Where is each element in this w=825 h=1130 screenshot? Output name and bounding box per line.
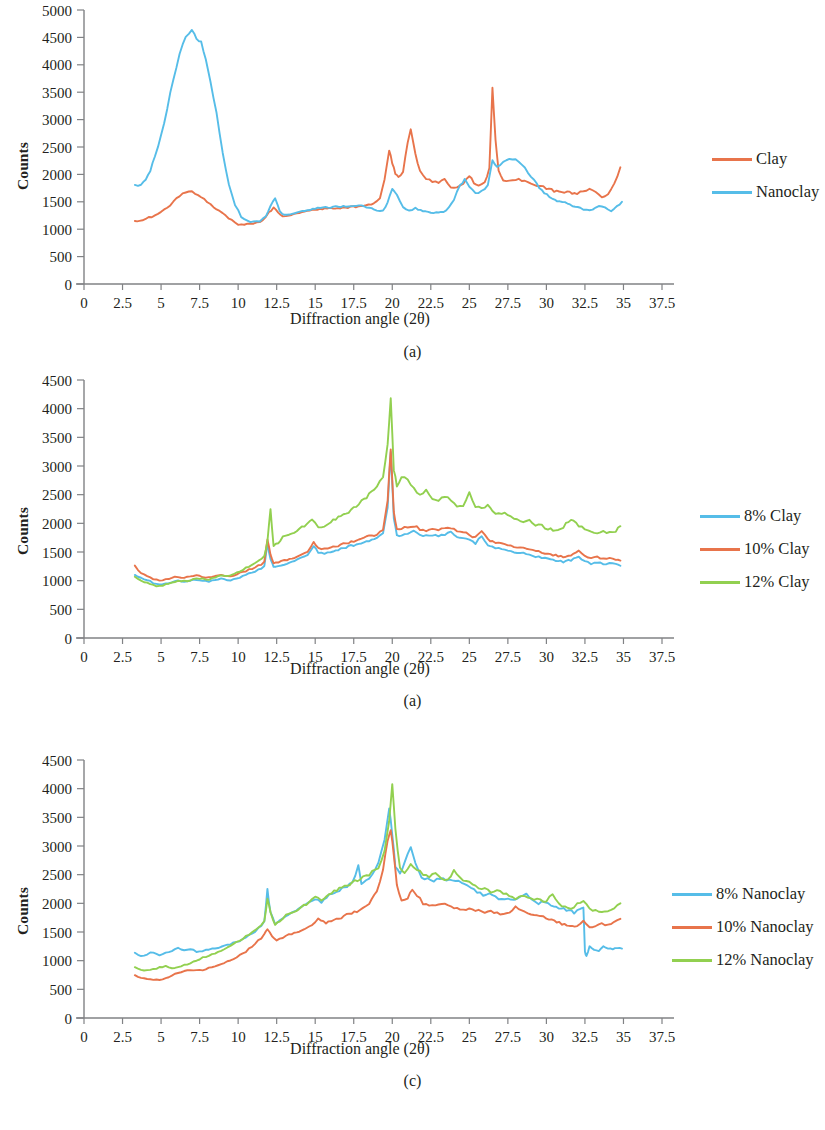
legend-swatch-nanoclay: [712, 191, 752, 194]
x-tick-label: 27.5: [495, 295, 521, 311]
legend-item[interactable]: 8% Nanoclay: [672, 878, 814, 911]
x-tick-label: 37.5: [649, 295, 675, 311]
series-line-8-clay: [135, 452, 621, 585]
chart-svg-a: 0500100015002000250030003500400045005000…: [0, 0, 720, 345]
y-tick-label: 2000: [42, 516, 72, 532]
legend-swatch-12-nanoclay: [672, 959, 712, 962]
y-axis-label-c: Counts: [14, 887, 32, 935]
y-tick-label: 3500: [42, 85, 72, 101]
x-tick-label: 2.5: [113, 649, 132, 665]
legend-swatch-clay: [712, 158, 752, 161]
x-tick-label: 0: [80, 295, 88, 311]
y-tick-label: 0: [65, 1011, 73, 1027]
y-tick-label: 3500: [42, 810, 72, 826]
x-tick-label: 0: [80, 649, 88, 665]
chart-svg-c: 05001000150020002500300035004000450002.5…: [0, 750, 720, 1075]
y-tick-label: 1500: [42, 925, 72, 941]
y-axis-label-a: Counts: [14, 142, 32, 190]
series-line-10-nanoclay: [135, 830, 621, 980]
x-axis-label-c: Diffraction angle (2θ): [160, 1040, 560, 1058]
series-line-12-nanoclay: [135, 784, 621, 970]
y-tick-label: 3000: [42, 839, 72, 855]
legend-a: ClayNanoclay: [712, 143, 819, 209]
y-tick-label: 0: [65, 277, 73, 293]
y-tick-label: 5000: [42, 3, 72, 19]
legend-swatch-10-nanoclay: [672, 926, 712, 929]
series-line-8-nanoclay: [135, 809, 622, 957]
series-line-nanoclay: [135, 30, 622, 222]
x-tick-label: 5: [157, 295, 165, 311]
y-tick-label: 4000: [42, 57, 72, 73]
x-tick-label: 0: [80, 1029, 88, 1045]
y-tick-label: 2000: [42, 167, 72, 183]
chart-panel-b: 05001000150020002500300035004000450002.5…: [0, 370, 825, 750]
y-tick-label: 500: [50, 602, 73, 618]
x-tick-label: 7.5: [190, 295, 209, 311]
x-tick-label: 37.5: [649, 649, 675, 665]
legend-item[interactable]: Nanoclay: [712, 176, 819, 209]
legend-label: 12% Clay: [744, 574, 810, 591]
y-tick-label: 0: [65, 631, 73, 647]
y-tick-label: 500: [50, 249, 73, 265]
legend-label: 8% Nanoclay: [716, 886, 805, 903]
legend-item[interactable]: 10% Nanoclay: [672, 911, 814, 944]
legend-item[interactable]: Clay: [712, 143, 819, 176]
y-tick-label: 4500: [42, 30, 72, 46]
y-tick-label: 500: [50, 982, 73, 998]
legend-swatch-10-clay: [700, 548, 740, 551]
x-tick-label: 12.5: [264, 295, 290, 311]
series-line-10-clay: [135, 449, 621, 580]
legend-label: 10% Nanoclay: [716, 919, 814, 936]
xrd-figure: 0500100015002000250030003500400045005000…: [0, 0, 825, 1130]
plot-area-c: 05001000150020002500300035004000450002.5…: [0, 750, 720, 1075]
legend-item[interactable]: 12% Clay: [700, 566, 810, 599]
y-tick-label: 3000: [42, 112, 72, 128]
legend-item[interactable]: 12% Nanoclay: [672, 944, 814, 977]
legend-swatch-8-clay: [700, 515, 740, 518]
y-tick-label: 3500: [42, 430, 72, 446]
legend-item[interactable]: 10% Clay: [700, 533, 810, 566]
chart-panel-c: 05001000150020002500300035004000450002.5…: [0, 750, 825, 1130]
plot-area-b: 05001000150020002500300035004000450002.5…: [0, 370, 720, 695]
series-line-clay: [135, 88, 621, 225]
y-tick-label: 2500: [42, 867, 72, 883]
legend-label: Nanoclay: [756, 184, 819, 201]
legend-label: Clay: [756, 151, 787, 168]
y-tick-label: 4500: [42, 373, 72, 389]
legend-label: 10% Clay: [744, 541, 810, 558]
x-tick-label: 22.5: [418, 295, 444, 311]
y-tick-label: 2500: [42, 140, 72, 156]
x-tick-label: 20: [385, 295, 400, 311]
panel-caption-b: (a): [0, 692, 825, 710]
y-tick-label: 1500: [42, 545, 72, 561]
chart-svg-b: 05001000150020002500300035004000450002.5…: [0, 370, 720, 695]
y-tick-label: 4000: [42, 401, 72, 417]
x-tick-label: 25: [462, 295, 477, 311]
y-tick-label: 1500: [42, 194, 72, 210]
x-tick-label: 35: [616, 295, 631, 311]
x-tick-label: 35: [616, 649, 631, 665]
x-axis-label-a: Diffraction angle (2θ): [160, 310, 560, 328]
x-tick-label: 32.5: [572, 1029, 598, 1045]
panel-caption-a: (a): [0, 343, 825, 361]
y-tick-label: 2500: [42, 487, 72, 503]
y-tick-label: 1000: [42, 953, 72, 969]
x-tick-label: 32.5: [572, 649, 598, 665]
panel-caption-c: (c): [0, 1072, 825, 1090]
legend-item[interactable]: 8% Clay: [700, 500, 810, 533]
x-tick-label: 10: [231, 295, 246, 311]
x-tick-label: 2.5: [113, 1029, 132, 1045]
y-tick-label: 3000: [42, 459, 72, 475]
x-tick-label: 2.5: [113, 295, 132, 311]
plot-area-a: 0500100015002000250030003500400045005000…: [0, 0, 720, 345]
x-tick-label: 15: [308, 295, 323, 311]
legend-swatch-12-clay: [700, 581, 740, 584]
y-tick-label: 4500: [42, 753, 72, 769]
legend-b: 8% Clay10% Clay12% Clay: [700, 500, 810, 599]
chart-panel-a: 0500100015002000250030003500400045005000…: [0, 0, 825, 370]
y-tick-label: 2000: [42, 896, 72, 912]
y-axis-label-b: Counts: [14, 507, 32, 555]
legend-swatch-8-nanoclay: [672, 893, 712, 896]
y-tick-label: 1000: [42, 573, 72, 589]
x-tick-label: 37.5: [649, 1029, 675, 1045]
